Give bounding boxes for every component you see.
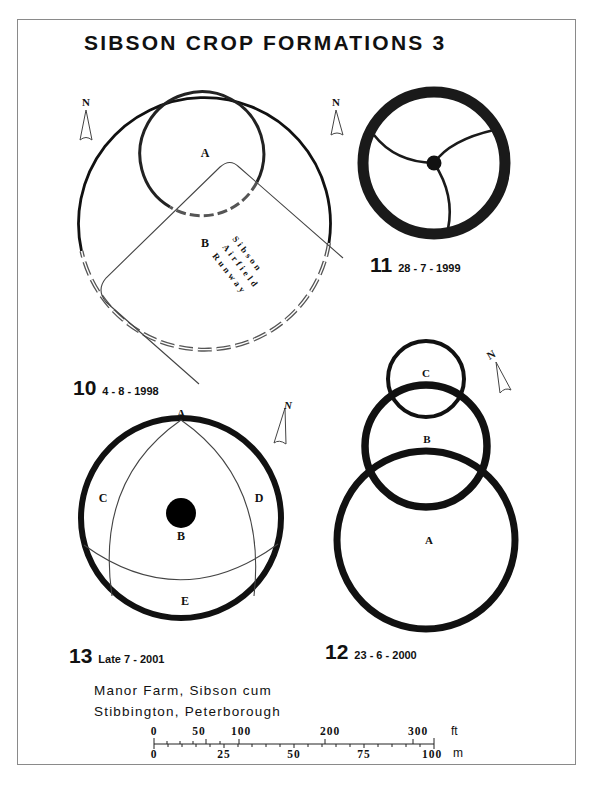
north-label: N [485, 347, 498, 361]
formation-13 [81, 408, 286, 618]
location-line-1: Manor Farm, Sibson cum [94, 683, 272, 698]
centre-circle-b [166, 498, 196, 528]
svg-text:100: 100 [231, 725, 251, 737]
circle-b-solid-arc [78, 98, 330, 251]
north-arrow-icon [274, 408, 286, 444]
svg-text:300: 300 [408, 725, 428, 737]
north-label: N [332, 96, 340, 108]
centre-dot [427, 156, 442, 171]
svg-text:100: 100 [422, 748, 442, 760]
ring-c [388, 341, 464, 417]
caption-formation-13: 13Late 7 - 2001 [69, 644, 164, 668]
circle-b-dashed-arc [82, 243, 330, 350]
circle-a-dashed-arc [170, 182, 257, 216]
scale-unit-metres: m [453, 746, 463, 760]
north-arrow-icon [331, 110, 343, 135]
svg-text:25: 25 [217, 748, 231, 760]
label-13-e: E [181, 594, 189, 608]
label-13-a: A [177, 407, 186, 421]
airfield-runway-outline [101, 163, 343, 385]
label-13-c: C [99, 491, 108, 505]
runway-label: Sibson Airfield Runway [210, 234, 265, 297]
north-label: N [82, 96, 90, 108]
label-13-b: B [177, 529, 185, 543]
formation-10 [78, 92, 343, 384]
caption-formation-12: 1223 - 6 - 2000 [325, 640, 417, 664]
svg-text:0: 0 [151, 748, 158, 760]
label-12-a: A [425, 534, 433, 546]
caption-formation-10: 104 - 8 - 1998 [73, 376, 159, 400]
svg-text:200: 200 [320, 725, 340, 737]
scale-labels: 0 50 100 200 300 0 25 50 75 100 [151, 725, 443, 760]
label-10-b: B [201, 236, 209, 250]
formation-11 [331, 92, 505, 234]
formation-12 [337, 341, 515, 629]
svg-text:0: 0 [151, 725, 158, 737]
ring-b [365, 385, 487, 507]
caption-formation-11: 1128 - 7 - 1999 [370, 253, 461, 277]
north-arrow-icon [80, 110, 92, 140]
label-12-c: C [422, 367, 430, 379]
location-line-2: Stibbington, Peterborough [94, 704, 281, 719]
page-title: SIBSON CROP FORMATIONS 3 [84, 31, 446, 55]
north-label: N [283, 399, 293, 411]
svg-text:50: 50 [287, 748, 301, 760]
scale-unit-feet: ft [451, 724, 458, 738]
north-arrow-icon [496, 362, 511, 393]
label-12-b: B [423, 433, 431, 445]
svg-text:75: 75 [357, 748, 371, 760]
label-13-d: D [255, 491, 264, 505]
label-10-a: A [201, 146, 210, 160]
svg-text:50: 50 [192, 725, 206, 737]
